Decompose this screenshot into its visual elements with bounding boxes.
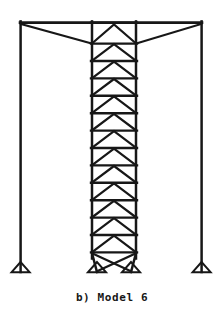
tower-structure-diagram — [0, 0, 224, 315]
figure-caption: b) Model 6 — [0, 291, 224, 304]
diagram-background — [0, 0, 224, 315]
figure-root: b) Model 6 — [0, 0, 224, 315]
